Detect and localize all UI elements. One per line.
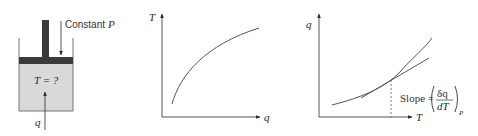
right-paren (455, 86, 458, 112)
slope-label: Slope = (400, 92, 434, 104)
denominator: dT (437, 100, 450, 112)
numerator: δq (437, 87, 448, 99)
y-axis-label: q (306, 18, 312, 30)
subscript-p: P (458, 109, 464, 117)
pressure-label: ConstantP (65, 18, 115, 30)
temperature-label: T = ? (34, 74, 59, 86)
fluid (19, 64, 73, 111)
heat-label: q (35, 116, 41, 128)
piston-cylinder: ConstantP T = ? q (19, 18, 115, 130)
x-axis-label: T (416, 111, 423, 123)
piston-rod (42, 20, 49, 58)
slope-annotation: Slope = δq dT P (400, 86, 464, 117)
chart-q-vs-t: q T (306, 14, 432, 123)
curve-t-q (172, 28, 259, 104)
x-axis-label: q (264, 111, 270, 123)
chart-t-vs-q: T q (149, 11, 270, 123)
diagram-canvas: ConstantP T = ? q T q q T Slope = δq dT … (0, 0, 478, 136)
piston-head (19, 57, 73, 64)
y-axis-label: T (149, 11, 156, 23)
